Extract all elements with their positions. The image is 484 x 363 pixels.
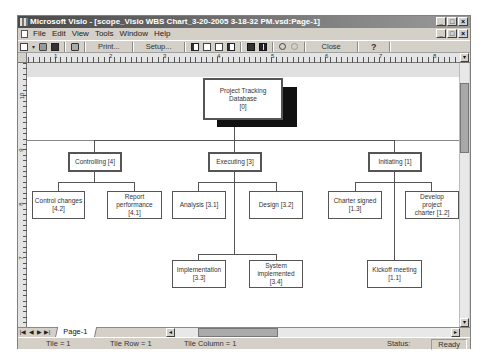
new-document-icon — [20, 43, 28, 51]
wbs-node-design[interactable]: Design [3.2] — [249, 191, 303, 219]
zoom-in-button[interactable] — [290, 42, 300, 52]
node-label: Charter signed — [334, 197, 377, 205]
last-tile-button[interactable] — [226, 42, 236, 52]
minimize-button[interactable]: _ — [436, 17, 446, 26]
doc-minimize-button[interactable]: _ — [436, 29, 446, 38]
horizontal-scrollbar[interactable]: ◂ ▸ — [166, 328, 460, 337]
node-label: Initiating [1] — [378, 158, 411, 166]
ruler-label: 4 — [217, 53, 220, 59]
connector — [431, 182, 432, 191]
doc-close-button[interactable]: × — [458, 29, 468, 38]
connector — [94, 140, 394, 141]
node-id: [1.3] — [334, 205, 377, 213]
wbs-node-implementation[interactable]: Implementation[3.3] — [172, 260, 226, 288]
node-label: Analysis [3.1] — [180, 201, 219, 209]
document-icon[interactable] — [21, 30, 28, 38]
ruler-label: 1 — [54, 53, 57, 59]
whole-page-button[interactable] — [258, 42, 268, 52]
wbs-node-kickoff-meeting[interactable]: Kickoff meeting[1.1] — [367, 260, 422, 288]
help-button[interactable]: ? — [363, 42, 385, 52]
connector — [198, 254, 276, 255]
toolbar-separator — [389, 42, 391, 52]
doc-restore-button[interactable]: □ — [447, 29, 457, 38]
toolbar-separator — [357, 42, 359, 52]
scroll-right-button[interactable]: ▸ — [451, 328, 460, 337]
connector — [234, 140, 235, 152]
menu-view[interactable]: View — [70, 28, 93, 40]
node-label: Report performance [4.1] — [114, 193, 155, 217]
single-tile-button[interactable] — [246, 42, 256, 52]
connector — [198, 182, 199, 191]
horizontal-scroll-thumb[interactable] — [198, 328, 278, 337]
previous-tile-button[interactable] — [202, 42, 212, 52]
wbs-node-report-performance[interactable]: Report performance [4.1] — [107, 191, 162, 219]
connector — [94, 140, 95, 152]
vertical-scroll-thumb[interactable] — [460, 83, 469, 153]
vertical-scrollbar[interactable]: ▾ — [459, 63, 469, 327]
zoom-out-button[interactable] — [278, 42, 288, 52]
ruler-label: 7 — [379, 53, 382, 59]
print-icon-button[interactable] — [70, 42, 80, 52]
status-value: Ready — [431, 339, 467, 350]
new-dropdown[interactable]: ▾ — [31, 42, 36, 52]
connector — [394, 140, 395, 152]
next-page-button[interactable]: ▶ — [35, 328, 43, 337]
maximize-button[interactable]: □ — [447, 17, 457, 26]
connector — [234, 126, 235, 140]
node-label: Executing [3] — [216, 158, 254, 166]
new-button[interactable] — [19, 42, 29, 52]
status-bar: Tile = 1 Tile Row = 1 Tile Column = 1 St… — [18, 337, 470, 349]
first-tile-button[interactable] — [190, 42, 200, 52]
scroll-down-button[interactable]: ▾ — [460, 318, 469, 327]
ruler-label: 3 — [163, 53, 166, 59]
menu-tools[interactable]: Tools — [93, 28, 118, 40]
ruler-label: 2 — [109, 53, 112, 59]
toolbar-separator — [304, 42, 306, 52]
wbs-node-initiating[interactable]: Initiating [1] — [368, 152, 422, 172]
toolbar-separator — [184, 42, 186, 52]
node-label: Kickoff meeting — [372, 266, 416, 274]
single-tile-icon — [247, 43, 255, 51]
ruler-label: 8 — [18, 202, 24, 205]
print-preview-toolbar: ▾ Print... Setup... Close ? — [18, 40, 470, 53]
scroll-left-button[interactable]: ◂ — [166, 328, 175, 337]
setup-button[interactable]: Setup... — [138, 42, 180, 52]
wbs-node-system-implemented[interactable]: System implemented [3.4] — [249, 260, 303, 288]
save-button[interactable] — [50, 42, 60, 52]
next-tile-button[interactable] — [214, 42, 224, 52]
zoom-out-icon — [279, 43, 286, 50]
ruler-scroll-button[interactable]: ▾ — [460, 53, 469, 62]
previous-page-button[interactable]: ◀ — [27, 328, 35, 337]
wbs-node-controlling[interactable]: Controlling [4] — [68, 152, 122, 172]
wbs-node-analysis[interactable]: Analysis [3.1] — [172, 191, 226, 219]
menu-help[interactable]: Help — [152, 28, 174, 40]
menu-file[interactable]: File — [31, 28, 50, 40]
close-window-button[interactable]: × — [458, 17, 468, 26]
wbs-node-develop-project-charter[interactable]: Develop project charter [1.2] — [405, 191, 459, 219]
tab-label: Page-1 — [63, 327, 87, 336]
toolbar-separator — [240, 42, 242, 52]
open-button[interactable] — [38, 42, 48, 52]
close-preview-button[interactable]: Close — [310, 42, 353, 52]
help-question-icon: ? — [371, 42, 377, 52]
wbs-node-root[interactable]: Project Tracking Database[0] — [203, 78, 283, 120]
drawing-canvas[interactable]: Project Tracking Database[0] Controlling… — [27, 63, 459, 327]
menu-bar: File Edit View Tools Window Help _ □ × — [18, 28, 470, 40]
menu-edit[interactable]: Edit — [50, 28, 70, 40]
menu-window[interactable]: Window — [118, 28, 152, 40]
wbs-node-executing[interactable]: Executing [3] — [208, 152, 262, 172]
connector — [355, 182, 356, 191]
ruler-label: 6 — [325, 53, 328, 59]
first-page-button[interactable]: |◀ — [19, 328, 27, 337]
visio-window: Microsoft Visio - [scope_Visio WBS Chart… — [17, 15, 471, 349]
wbs-node-charter-signed[interactable]: Charter signed[1.3] — [328, 191, 382, 219]
connector — [94, 172, 95, 182]
visio-app-icon — [20, 18, 28, 26]
wbs-node-control-changes[interactable]: Control changes[4.2] — [32, 191, 85, 219]
print-button[interactable]: Print... — [90, 42, 128, 52]
previous-tile-icon — [203, 43, 211, 51]
last-page-button[interactable]: ▶| — [43, 328, 51, 337]
connector — [134, 182, 135, 191]
ruler-corner[interactable] — [18, 53, 27, 63]
vertical-ruler: 10 9 8 7 — [18, 63, 27, 327]
